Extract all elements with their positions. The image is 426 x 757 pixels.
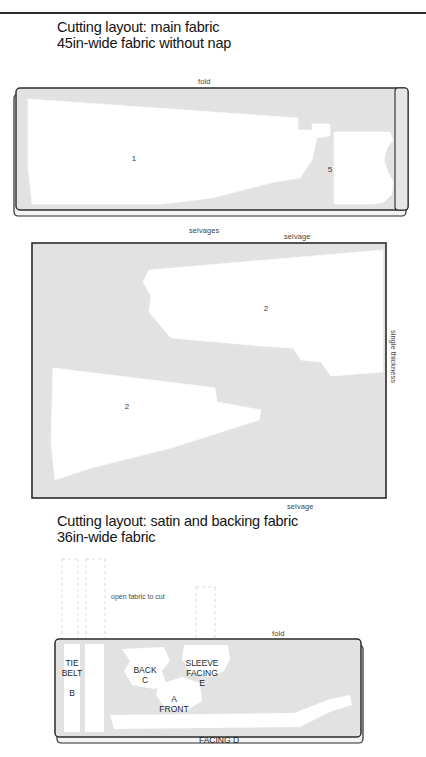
- tie-belt-line2: BELT: [62, 668, 83, 678]
- section-title-main-line1: Cutting layout: main fabric: [57, 19, 219, 35]
- back-c-line1: BACK: [133, 665, 156, 675]
- cutting-layout-page: Cutting layout: main fabric 45in-wide fa…: [0, 0, 426, 757]
- piece-number-2-lower: 2: [125, 402, 129, 411]
- header-rule: [0, 12, 426, 14]
- section-title-main-fabric: Cutting layout: main fabric 45in-wide fa…: [57, 20, 231, 51]
- layout-36in-folded: [54, 637, 368, 749]
- tie-belt-line4: B: [69, 688, 75, 698]
- selvage-label-bottom-layout2: selvage: [287, 502, 314, 511]
- section-title-main-line2: 45in-wide fabric without nap: [57, 36, 231, 52]
- sleeve-facing-line2: FACING: [186, 668, 218, 678]
- selvage-label-top-layout2: selvage: [284, 232, 311, 241]
- layout-45in-folded: [12, 86, 414, 220]
- piece-label-back-c: BACK C: [133, 665, 156, 685]
- fold-label-layout1: fold: [198, 77, 211, 86]
- sleeve-facing-line1: SLEEVE: [185, 658, 218, 668]
- section-title-satin-line1: Cutting layout: satin and backing fabric: [57, 513, 298, 529]
- piece-label-a-front: A FRONT: [159, 694, 188, 714]
- section-title-satin-line2: 36in-wide fabric: [57, 530, 298, 546]
- section-title-satin: Cutting layout: satin and backing fabric…: [57, 514, 298, 545]
- layout-45in-single: [31, 242, 387, 499]
- pattern-piece-tie-belt-b-2: [85, 644, 104, 732]
- back-c-line2: C: [142, 675, 148, 685]
- a-front-line2: FRONT: [159, 704, 188, 714]
- open-fabric-guides: [55, 555, 235, 645]
- piece-number-1: 1: [132, 154, 136, 163]
- piece-label-tie-belt-b: TIE BELT B: [62, 658, 83, 698]
- sleeve-facing-line3: E: [199, 678, 205, 688]
- pattern-piece-5: [334, 132, 393, 204]
- piece-label-facing-d: FACING D: [199, 735, 239, 745]
- piece-number-5: 5: [328, 165, 332, 174]
- selvages-label-layout1: selvages: [189, 226, 219, 235]
- piece-label-sleeve-facing-e: SLEEVE FACING E: [185, 658, 218, 688]
- single-thickness-label: single thickness: [389, 330, 398, 383]
- piece-number-2-upper: 2: [264, 304, 268, 313]
- tie-belt-line1: TIE: [65, 658, 78, 668]
- open-fabric-to-cut-note: open fabric to cut: [111, 593, 165, 600]
- a-front-line1: A: [171, 694, 177, 704]
